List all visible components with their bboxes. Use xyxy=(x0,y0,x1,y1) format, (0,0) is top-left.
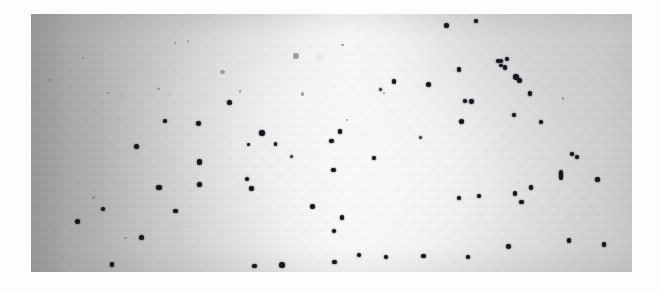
point-source-dot xyxy=(293,53,299,59)
point-source-dot xyxy=(528,91,532,95)
point-source-dot xyxy=(279,262,285,268)
point-source-dot xyxy=(539,120,543,124)
point-source-dot xyxy=(220,70,225,75)
point-source-dot xyxy=(419,136,422,139)
point-source-dot xyxy=(570,152,573,155)
point-source-dot xyxy=(196,121,201,126)
point-source-dot xyxy=(134,144,139,149)
point-source-dot xyxy=(252,264,257,269)
point-source-dot xyxy=(421,254,425,258)
point-source-dot xyxy=(519,200,523,204)
point-source-dot xyxy=(512,113,516,117)
point-source-dot xyxy=(562,97,564,99)
point-source-dot xyxy=(575,155,579,159)
point-source-dot xyxy=(595,177,600,182)
screenshot-canvas xyxy=(0,0,659,292)
point-source-dot xyxy=(332,229,336,233)
point-source-dot xyxy=(506,244,511,249)
point-source-dot xyxy=(48,79,50,81)
point-source-dot xyxy=(466,255,470,259)
point-source-dot xyxy=(602,242,606,246)
point-source-dot xyxy=(426,82,431,87)
point-source-dot xyxy=(529,185,533,189)
point-source-dot xyxy=(173,209,178,214)
point-source-dot xyxy=(197,159,202,164)
point-source-dot xyxy=(474,19,478,23)
point-source-dot xyxy=(157,88,160,91)
point-source-dot xyxy=(301,92,304,95)
point-source-dot xyxy=(496,59,500,63)
point-source-dot xyxy=(110,262,114,266)
point-source-dot xyxy=(505,57,509,61)
point-source-dot xyxy=(329,139,333,143)
point-source-dot xyxy=(392,79,396,83)
point-source-dot xyxy=(82,57,84,59)
point-source-dot xyxy=(249,186,253,190)
point-source-dot xyxy=(124,237,127,240)
point-source-dot xyxy=(332,260,336,264)
point-source-dot xyxy=(477,194,481,198)
point-source-dot xyxy=(197,182,202,187)
point-source-dot xyxy=(92,196,94,198)
point-source-dot xyxy=(559,170,564,180)
point-source-dot xyxy=(517,78,522,83)
point-source-dot xyxy=(341,44,343,46)
point-source-dot xyxy=(567,238,572,243)
point-source-dot xyxy=(469,99,474,104)
point-source-dot xyxy=(331,168,336,173)
photographic-plate xyxy=(31,14,632,272)
